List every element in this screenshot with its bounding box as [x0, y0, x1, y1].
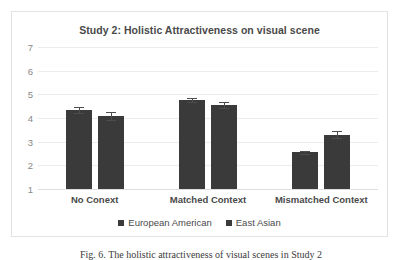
error-bar-cap — [106, 112, 116, 113]
legend-label: European American — [128, 217, 211, 228]
gridline — [38, 189, 378, 190]
error-bar-cap — [300, 151, 310, 152]
error-bar-cap — [332, 138, 342, 139]
y-axis-tick-label: 3 — [28, 136, 33, 147]
bars-layer — [38, 47, 378, 189]
bar — [179, 100, 205, 189]
legend-item[interactable]: East Asian — [226, 217, 281, 228]
error-bar-cap — [187, 102, 197, 103]
error-bar-cap — [219, 102, 229, 103]
error-bar-cap — [332, 131, 342, 132]
chart-title: Study 2: Holistic Attractiveness on visu… — [12, 24, 387, 36]
plot-area: 7654321 — [38, 47, 378, 189]
chart-legend: European AmericanEast Asian — [12, 217, 387, 228]
y-axis-tick-label: 6 — [28, 65, 33, 76]
y-axis-tick-label: 4 — [28, 113, 33, 124]
y-axis-tick-label: 1 — [28, 184, 33, 195]
y-axis-tick-label: 2 — [28, 160, 33, 171]
bar — [211, 105, 237, 189]
error-bar-cap — [106, 120, 116, 121]
x-axis-category-label: No Conext — [71, 194, 119, 205]
legend-square-marker-icon — [118, 220, 124, 226]
legend-label: East Asian — [236, 217, 281, 228]
bar — [98, 116, 124, 189]
chart-frame: Study 2: Holistic Attractiveness on visu… — [11, 11, 388, 237]
legend-square-marker-icon — [226, 220, 232, 226]
y-axis-tick-label: 7 — [28, 42, 33, 53]
error-bar — [111, 112, 112, 120]
bar — [292, 152, 318, 189]
x-axis-labels: No ConextMatched ContextMismatched Conte… — [38, 194, 378, 208]
y-axis-tick-label: 5 — [28, 89, 33, 100]
error-bar-cap — [187, 98, 197, 99]
bar — [324, 135, 350, 189]
bar — [66, 110, 92, 189]
error-bar-cap — [74, 107, 84, 108]
error-bar-cap — [219, 108, 229, 109]
x-axis-category-label: Matched Context — [170, 194, 247, 205]
legend-item[interactable]: European American — [118, 217, 211, 228]
error-bar-cap — [300, 154, 310, 155]
x-axis-category-label: Mismatched Context — [275, 194, 368, 205]
error-bar-cap — [74, 113, 84, 114]
figure-caption: Fig. 6. The holistic attractiveness of v… — [0, 249, 402, 260]
